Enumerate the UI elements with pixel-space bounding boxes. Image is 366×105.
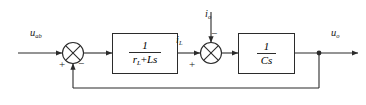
- transfer-function-block-inductor: 1 rL+Ls: [112, 33, 178, 74]
- label-inductor-current: iL: [176, 34, 183, 46]
- numerator-inductor: 1: [138, 40, 152, 52]
- label-output-uo: uo: [331, 27, 340, 39]
- diagram-vector-layer: [0, 0, 366, 105]
- junction-2-minus-sign: −: [211, 28, 217, 39]
- block-diagram-canvas: 1 rL+Ls 1 Cs uab iL io uo + − + −: [0, 0, 366, 105]
- transfer-function-block-capacitor: 1 Cs: [238, 33, 295, 74]
- numerator-capacitor: 1: [260, 41, 274, 53]
- label-disturbance-current: io: [205, 8, 211, 20]
- junction-1-minus-sign: −: [78, 58, 84, 69]
- label-inductor-current-subscript: L: [179, 39, 183, 46]
- denominator-inductor: rL+Ls: [129, 52, 162, 67]
- fraction-capacitor: 1 Cs: [257, 41, 277, 66]
- denominator-suffix-inductor: Ls: [147, 53, 157, 65]
- output-tap-node: [317, 51, 322, 56]
- label-input-uab: uab: [30, 27, 42, 39]
- label-input-subscript: ab: [35, 32, 42, 39]
- junction-1-plus-sign: +: [59, 59, 65, 70]
- denominator-capacitor: Cs: [257, 53, 277, 66]
- junction-2-plus-sign: +: [189, 59, 195, 70]
- label-output-subscript: o: [336, 32, 339, 39]
- label-disturbance-subscript: o: [208, 13, 211, 20]
- fraction-inductor: 1 rL+Ls: [129, 40, 162, 67]
